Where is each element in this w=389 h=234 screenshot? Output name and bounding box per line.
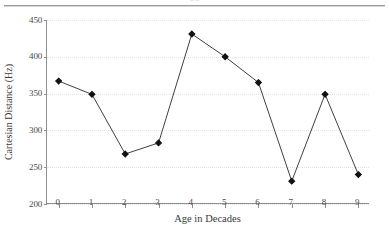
x-axis-tick-label: 4: [181, 198, 201, 207]
data-point-marker: [156, 140, 162, 146]
x-axis-tick-label: 3: [148, 198, 168, 207]
y-axis-tick-label: 300: [2, 126, 42, 135]
data-point-marker: [89, 91, 95, 97]
y-axis-tick-mark: [44, 130, 47, 131]
horizontal-rule: [4, 5, 385, 6]
data-point-marker: [289, 178, 295, 184]
x-axis-tick-label: 0: [48, 198, 68, 207]
y-axis-tick-label: 250: [2, 163, 42, 172]
y-axis-tick-mark: [44, 204, 47, 205]
line-chart-figure: Cartesian Distance (Hz) 2002503003504004…: [0, 9, 389, 234]
y-axis-tick-mark: [44, 167, 47, 168]
y-axis-tick-label: 400: [2, 52, 42, 61]
data-point-marker: [122, 151, 128, 157]
y-axis-tick-label: 200: [2, 200, 42, 209]
x-axis-tick-label: 5: [214, 198, 234, 207]
x-axis-tick-label: 6: [247, 198, 267, 207]
y-axis-tick-label: 350: [2, 89, 42, 98]
y-axis-tick-mark: [44, 20, 47, 21]
x-axis-tick-label: 7: [281, 198, 301, 207]
x-axis-tick-label: 8: [314, 198, 334, 207]
data-point-marker: [355, 172, 361, 178]
data-point-marker: [189, 31, 195, 37]
x-axis-tick-label: 9: [347, 198, 367, 207]
cut-off-caption-text: n n: [0, 0, 389, 2]
data-point-markers: [56, 31, 361, 184]
series-line-path: [59, 34, 359, 181]
x-axis-tick-label: 1: [81, 198, 101, 207]
data-point-marker: [56, 78, 62, 84]
x-axis-title: Age in Decades: [46, 212, 369, 225]
x-axis-tick-label: 2: [114, 198, 134, 207]
series-group: [47, 20, 370, 204]
data-point-marker: [322, 91, 328, 97]
y-axis-tick-mark: [44, 94, 47, 95]
y-axis-tick-mark: [44, 57, 47, 58]
page-top-strip: n n: [0, 0, 389, 9]
y-axis-title: Cartesian Distance (Hz): [2, 20, 16, 204]
y-axis-tick-label: 450: [2, 16, 42, 25]
plot-area: [46, 20, 369, 204]
